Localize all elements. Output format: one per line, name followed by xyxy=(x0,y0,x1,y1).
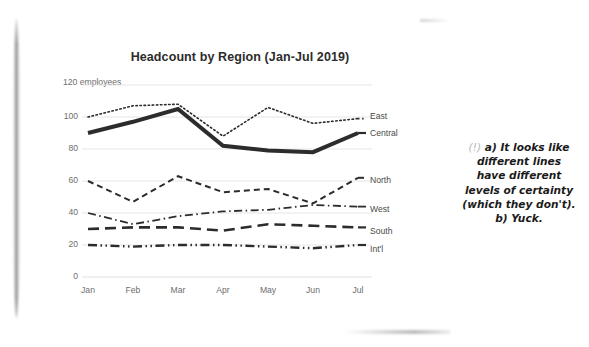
x-tick-label-jun: Jun xyxy=(293,285,333,295)
notebook-page: Headcount by Region (Jan-Jul 2019) 120 e… xyxy=(0,0,589,347)
x-tick-label-feb: Feb xyxy=(113,285,153,295)
warning-bang-icon: (!) xyxy=(469,141,482,153)
y-tick-label-100: 100 xyxy=(52,111,78,121)
annotation-line-3: levels of certainty xyxy=(465,184,573,196)
y-tick-label-60: 60 xyxy=(52,175,78,185)
x-tick-label-jul: Jul xyxy=(338,285,378,295)
series-label-east: East xyxy=(370,111,387,121)
series-line-south xyxy=(88,224,358,230)
annotation-line-5: b) Yuck. xyxy=(495,212,543,224)
chart-series-lines xyxy=(88,104,366,248)
annotation-line-4: (which they don't). xyxy=(462,198,575,210)
chart-gridlines xyxy=(82,85,372,277)
y-tick-label-40: 40 xyxy=(52,207,78,217)
series-label-north: North xyxy=(370,175,391,185)
series-label-intl: Int'l xyxy=(370,244,383,254)
y-tick-label-80: 80 xyxy=(52,143,78,153)
annotation-line-1: different lines xyxy=(477,155,561,167)
y-tick-label-20: 20 xyxy=(52,239,78,249)
series-label-west: West xyxy=(370,204,389,214)
series-label-central: Central xyxy=(370,128,398,138)
x-tick-label-apr: Apr xyxy=(203,285,243,295)
handwritten-annotation: (!) a) It looks like different lines hav… xyxy=(452,140,586,225)
x-tick-label-may: May xyxy=(248,285,288,295)
series-line-intl xyxy=(88,245,358,248)
series-label-south: South xyxy=(370,226,392,236)
annotation-line-0: a) It looks like xyxy=(485,141,570,153)
y-tick-label-0: 0 xyxy=(52,271,78,281)
annotation-line-2: have different xyxy=(477,169,562,181)
series-line-east xyxy=(88,104,358,136)
x-tick-label-mar: Mar xyxy=(158,285,198,295)
series-line-west xyxy=(88,205,358,224)
series-line-central xyxy=(88,109,358,152)
x-tick-label-jan: Jan xyxy=(68,285,108,295)
series-line-north xyxy=(88,176,358,203)
